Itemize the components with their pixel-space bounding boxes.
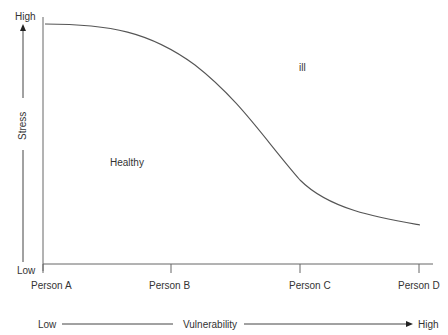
tick-label-person-a: Person A	[31, 281, 72, 291]
x-axis-high-label: High	[418, 320, 439, 330]
tick-label-person-d: Person D	[398, 281, 440, 291]
tick-label-person-c: Person C	[289, 281, 331, 291]
y-axis-title: Stress	[18, 112, 28, 140]
tick-label-person-b: Person B	[149, 281, 190, 291]
x-axis-low-label: Low	[38, 320, 56, 330]
region-label-ill: ill	[299, 63, 306, 73]
threshold-curve	[45, 24, 420, 225]
stress-arrow-icon	[20, 24, 26, 98]
y-axis-low-label: Low	[17, 266, 35, 276]
region-label-healthy: Healthy	[110, 158, 144, 168]
x-axis-title: Vulnerability	[183, 320, 237, 330]
vulnerability-arrow-icon	[244, 321, 413, 327]
y-axis-high-label: High	[15, 12, 36, 22]
